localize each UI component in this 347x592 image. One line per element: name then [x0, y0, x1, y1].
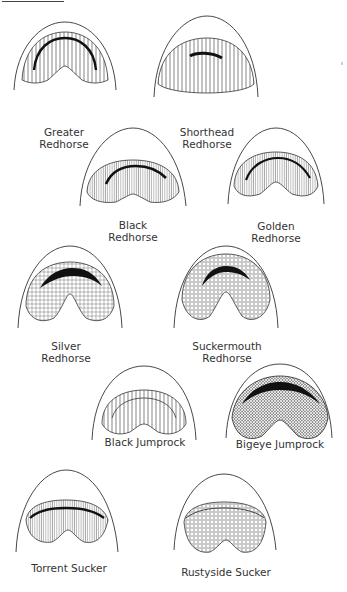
specimen-shorthead-redhorse: Shorthead Redhorse [152, 12, 262, 142]
specimen-name-line1: Bigeye Jumprock [230, 438, 330, 450]
mouth-illustration [172, 240, 282, 330]
mouth-illustration [224, 362, 334, 442]
specimen-name-line2: Redhorse [36, 352, 96, 364]
specimen-black-jumprock: Black Jumprock [90, 362, 200, 462]
mouth-illustration [90, 362, 200, 442]
mouth-illustration [16, 240, 126, 330]
specimen-name-line1: Silver [36, 340, 96, 352]
specimen-rustyside-sucker: Rustyside Sucker [172, 470, 282, 585]
mouth-illustration [14, 466, 124, 556]
specimen-bigeye-jumprock: Bigeye Jumprock [224, 362, 334, 462]
specimen-name-line1: Torrent Sucker [24, 562, 114, 574]
mouth-illustration [172, 470, 282, 560]
specimen-silver-redhorse: Silver Redhorse [16, 240, 126, 365]
specimen-name-line1: Black Jumprock [100, 436, 190, 448]
specimen-name-line1: Rustyside Sucker [176, 566, 276, 578]
specimen-suckermouth-redhorse: Suckermouth Redhorse [172, 240, 282, 365]
specimen-torrent-sucker: Torrent Sucker [14, 466, 124, 581]
mouth-illustration [10, 18, 115, 93]
specimen-black-redhorse: Black Redhorse [78, 124, 188, 244]
scan-speck [341, 62, 343, 65]
mouth-illustration [152, 12, 262, 102]
specimen-name-line1: Suckermouth [187, 340, 267, 352]
specimen-name-line1: Black [103, 219, 163, 231]
mouth-illustration [78, 124, 188, 214]
top-rule [2, 1, 64, 2]
specimen-golden-redhorse: Golden Redhorse [226, 124, 326, 244]
mouth-illustration [226, 124, 326, 214]
specimen-name-line1: Golden [246, 220, 306, 232]
